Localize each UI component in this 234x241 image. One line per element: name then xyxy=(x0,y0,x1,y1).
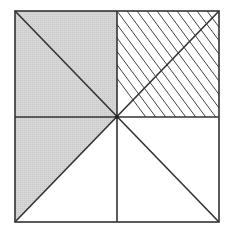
geometry-diagram xyxy=(0,0,234,241)
center-point xyxy=(115,115,119,119)
